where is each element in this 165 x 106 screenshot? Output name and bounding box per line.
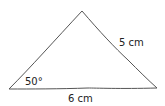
- side-label-right: 5 cm: [119, 37, 144, 48]
- angle-label: 50°: [25, 76, 43, 87]
- side-label-bottom: 6 cm: [68, 93, 93, 104]
- triangle-diagram: 50° 5 cm 6 cm: [0, 0, 165, 106]
